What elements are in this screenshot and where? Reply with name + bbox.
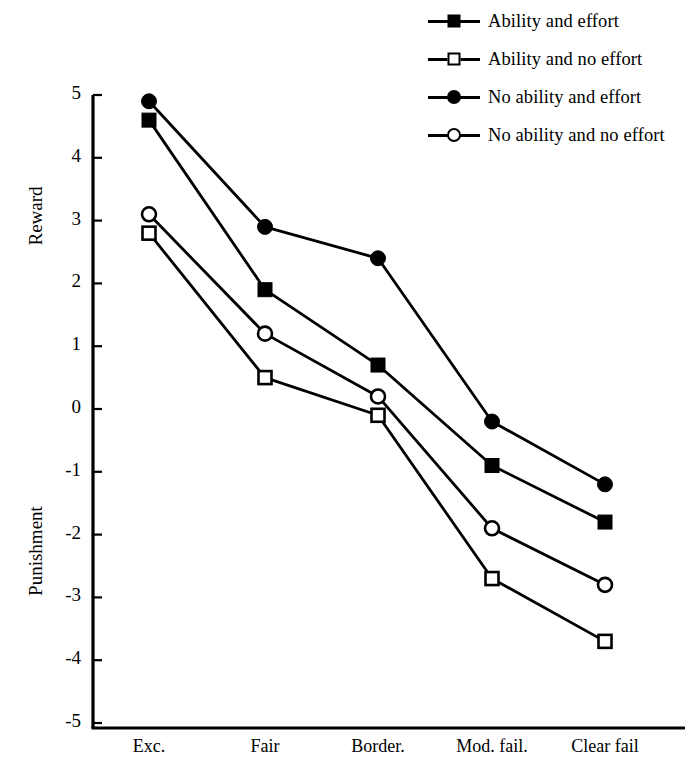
- x-axis-tick-label: Mod. fail.: [456, 736, 528, 757]
- data-point-marker: [372, 409, 385, 422]
- y-axis-tick-label: 4: [47, 145, 81, 167]
- x-axis-tick-label: Clear fail: [571, 736, 638, 757]
- data-point-marker: [371, 358, 385, 372]
- series-line: [149, 120, 605, 522]
- data-point-marker: [142, 94, 157, 109]
- y-axis-tick-label: -3: [47, 584, 81, 606]
- data-point-marker: [598, 477, 613, 492]
- x-axis-tick-label: Exc.: [133, 736, 165, 757]
- data-point-marker: [258, 283, 272, 297]
- y-axis-tick-label: -5: [47, 710, 81, 732]
- y-axis-tick-label: 5: [47, 82, 81, 104]
- x-axis-tick-label: Fair: [251, 736, 280, 757]
- y-axis-tick-label: -1: [47, 459, 81, 481]
- series-no-ability-and-effort: [142, 94, 613, 492]
- data-point-marker: [371, 389, 385, 403]
- data-point-marker: [143, 227, 156, 240]
- data-point-marker: [486, 572, 499, 585]
- y-axis-tick-label: 0: [47, 396, 81, 418]
- y-axis-tick-label: -4: [47, 647, 81, 669]
- data-point-marker: [371, 251, 386, 266]
- series-line: [149, 101, 605, 484]
- series-ability-and-effort: [142, 113, 612, 529]
- data-point-marker: [485, 521, 499, 535]
- series-line: [149, 233, 605, 641]
- y-axis-tick-label: 2: [47, 270, 81, 292]
- y-axis-tick-label: -2: [47, 522, 81, 544]
- data-point-marker: [598, 578, 612, 592]
- data-point-marker: [259, 371, 272, 384]
- data-point-marker: [142, 207, 156, 221]
- data-point-marker: [485, 459, 499, 473]
- data-point-marker: [599, 635, 612, 648]
- data-point-marker: [485, 414, 500, 429]
- data-point-marker: [142, 113, 156, 127]
- plot-area: [0, 0, 691, 776]
- y-axis-tick-label: 1: [47, 333, 81, 355]
- series-ability-and-no-effort: [143, 227, 612, 648]
- x-axis-tick-label: Border.: [351, 736, 405, 757]
- data-point-marker: [598, 515, 612, 529]
- chart-figure: Ability and effort Ability and no effort…: [0, 0, 691, 776]
- data-point-marker: [258, 219, 273, 234]
- y-axis-tick-label: 3: [47, 208, 81, 230]
- data-point-marker: [258, 327, 272, 341]
